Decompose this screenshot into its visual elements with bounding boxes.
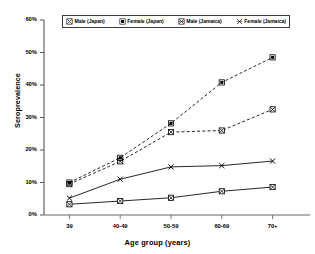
plot-area bbox=[0, 0, 315, 254]
x-axis-title: Age group (years) bbox=[0, 238, 315, 247]
data-point bbox=[168, 195, 173, 200]
data-point bbox=[118, 177, 123, 182]
data-point bbox=[270, 107, 275, 112]
y-tick-label: 10% bbox=[13, 180, 37, 186]
x-tick-label: 39 bbox=[47, 224, 91, 230]
y-tick-label: 30% bbox=[13, 115, 37, 121]
data-point bbox=[219, 128, 224, 133]
data-point bbox=[219, 189, 224, 194]
chart-container: Male (Japan) Female (Japan) Male (Jamaic… bbox=[0, 0, 315, 254]
x-tick-label: 60-69 bbox=[200, 224, 244, 230]
data-point bbox=[219, 80, 224, 85]
x-tick-label: 70+ bbox=[251, 224, 295, 230]
data-point bbox=[118, 159, 123, 164]
y-tick-label: 20% bbox=[13, 147, 37, 153]
x-tick-label: 40-49 bbox=[98, 224, 142, 230]
y-axis-title: Seroprevalence bbox=[13, 56, 22, 146]
data-point bbox=[118, 198, 123, 203]
y-tick-label: 0% bbox=[13, 212, 37, 218]
y-tick-label: 50% bbox=[13, 50, 37, 56]
data-point bbox=[270, 55, 275, 60]
y-tick-label: 40% bbox=[13, 82, 37, 88]
y-tick-label: 60% bbox=[13, 17, 37, 23]
data-point bbox=[168, 130, 173, 135]
data-point bbox=[67, 202, 72, 207]
data-point bbox=[270, 184, 275, 189]
data-point bbox=[67, 196, 72, 201]
x-tick-label: 50-59 bbox=[149, 224, 193, 230]
